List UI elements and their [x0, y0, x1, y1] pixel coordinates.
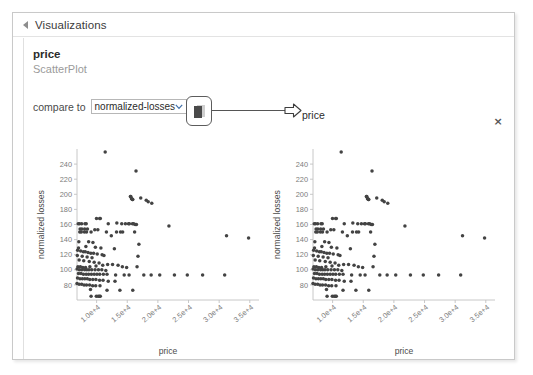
arrow-right-outline-icon [284, 102, 302, 119]
svg-text:220: 220 [60, 175, 72, 184]
annotation-label: price [302, 109, 325, 121]
collapse-triangle-icon[interactable] [23, 21, 28, 29]
scatter-chart-right[interactable]: 801001201401601802002202401.0e+41.5e+42.… [271, 143, 501, 358]
svg-text:normalized losses: normalized losses [272, 190, 282, 259]
svg-text:180: 180 [296, 205, 308, 214]
svg-text:3.0e+4: 3.0e+4 [437, 303, 460, 325]
svg-text:1.0e+4: 1.0e+4 [79, 303, 102, 325]
svg-text:1.0e+4: 1.0e+4 [315, 303, 338, 325]
svg-text:normalized losses: normalized losses [36, 190, 46, 259]
svg-text:3.0e+4: 3.0e+4 [201, 303, 224, 325]
svg-text:220: 220 [296, 175, 308, 184]
svg-text:1.5e+4: 1.5e+4 [345, 303, 368, 325]
compare-to-row: compare to normalized-losses [33, 99, 187, 114]
svg-text:160: 160 [296, 220, 308, 229]
series-name: price [33, 47, 87, 61]
plot-type-label: ScatterPlot [33, 62, 87, 77]
svg-text:3.5e+4: 3.5e+4 [468, 303, 491, 325]
svg-text:3.5e+4: 3.5e+4 [232, 303, 255, 325]
compare-to-select[interactable]: normalized-losses [91, 99, 187, 114]
copy-button[interactable] [186, 96, 212, 126]
chevron-down-icon[interactable] [175, 103, 183, 111]
svg-text:80: 80 [64, 281, 72, 290]
svg-text:240: 240 [296, 160, 308, 169]
svg-text:160: 160 [60, 220, 72, 229]
annotation-connector-line [212, 110, 286, 111]
svg-text:price: price [395, 346, 414, 356]
series-meta: price ScatterPlot [33, 47, 87, 77]
visualizations-panel: Visualizations price ScatterPlot compare… [12, 12, 515, 360]
svg-text:2.5e+4: 2.5e+4 [171, 303, 194, 325]
svg-text:140: 140 [296, 235, 308, 244]
svg-text:1.5e+4: 1.5e+4 [109, 303, 132, 325]
svg-text:price: price [159, 346, 178, 356]
svg-text:100: 100 [60, 265, 72, 274]
close-icon[interactable]: × [493, 117, 503, 127]
page-title: Visualizations [35, 19, 107, 31]
svg-text:2.5e+4: 2.5e+4 [407, 303, 430, 325]
copy-pages-icon [194, 105, 205, 118]
svg-text:100: 100 [296, 265, 308, 274]
left-rail-divider [23, 38, 24, 359]
svg-text:200: 200 [296, 190, 308, 199]
svg-text:180: 180 [60, 205, 72, 214]
svg-text:120: 120 [60, 250, 72, 259]
panel-header[interactable]: Visualizations [13, 13, 514, 37]
svg-text:140: 140 [60, 235, 72, 244]
compare-to-selected-value: normalized-losses [95, 101, 176, 112]
compare-to-label: compare to [33, 101, 86, 113]
svg-text:240: 240 [60, 160, 72, 169]
svg-text:2.0e+4: 2.0e+4 [376, 303, 399, 325]
scatter-chart-left[interactable]: 801001201401601802002202401.0e+41.5e+42.… [35, 143, 265, 358]
svg-text:200: 200 [60, 190, 72, 199]
svg-text:120: 120 [296, 250, 308, 259]
svg-text:80: 80 [300, 281, 308, 290]
svg-text:2.0e+4: 2.0e+4 [140, 303, 163, 325]
